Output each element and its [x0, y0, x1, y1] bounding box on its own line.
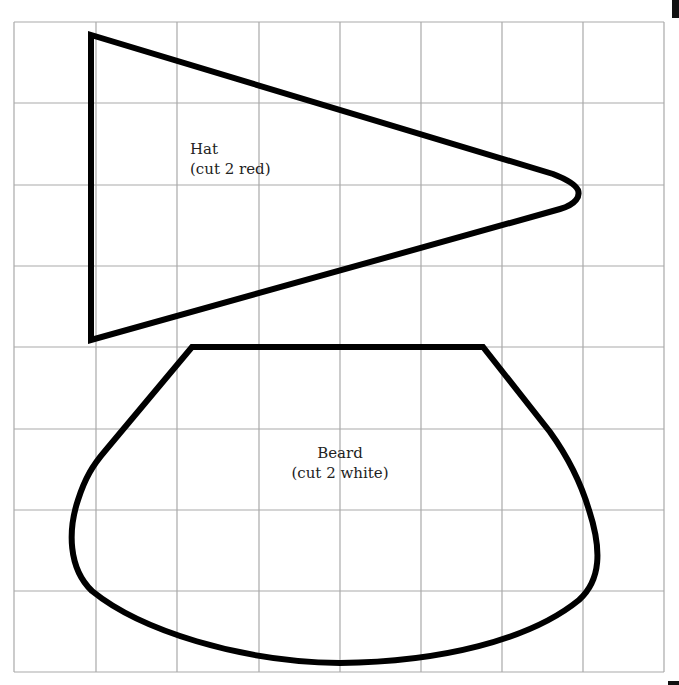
hat-instruction: (cut 2 red): [190, 159, 271, 179]
hat-name: Hat: [190, 139, 271, 159]
page-edge-mark-top: [672, 0, 679, 18]
hat-label: Hat (cut 2 red): [190, 139, 271, 179]
beard-label: Beard (cut 2 white): [270, 443, 410, 483]
pattern-diagram: [0, 0, 679, 685]
beard-outline: [72, 347, 598, 663]
beard-name: Beard: [270, 443, 410, 463]
hat-outline: [91, 35, 579, 340]
page-edge-mark-bottom: [668, 681, 679, 685]
beard-instruction: (cut 2 white): [270, 463, 410, 483]
